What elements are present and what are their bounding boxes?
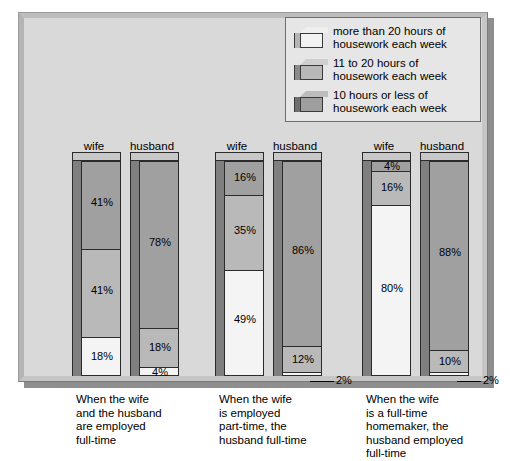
- legend-item-10-or-less: 10 hours or less of housework each week: [294, 89, 474, 115]
- bar-top-face: [273, 152, 322, 161]
- bar-header-husband: husband: [269, 140, 321, 152]
- bar-segment-value: 88%: [430, 246, 470, 258]
- bar-segment-more-than-20: 80%: [371, 205, 411, 376]
- callout-husband-2-percent: 2%: [483, 374, 499, 386]
- bar-segment-value: 80%: [372, 282, 412, 294]
- callout-husband-2-percent: 2%: [336, 374, 352, 386]
- group-caption: When the wife is a full-time homemaker, …: [366, 393, 486, 461]
- legend-item-11-to-20: 11 to 20 hours of housework each week: [294, 57, 474, 83]
- bar-segment-10-or-less: 86%: [282, 161, 322, 346]
- bar-top-face: [72, 152, 121, 161]
- bar-segment-11-to-20: 12%: [282, 346, 322, 372]
- bar-segment-11-to-20: 16%: [371, 171, 411, 205]
- bar-header-wife: wife: [211, 140, 263, 152]
- bar-segment-11-to-20: 18%: [139, 328, 179, 367]
- bar-wife: 41% 41% 18%: [81, 161, 121, 376]
- bar-header-wife: wife: [358, 140, 410, 152]
- bar-wife: 4% 16% 80%: [371, 161, 411, 376]
- chart-legend: more than 20 hours of housework each wee…: [285, 17, 481, 122]
- bar-segment-value: 4%: [140, 366, 180, 378]
- callout-leader-line: [310, 381, 334, 382]
- legend-swatch-cube-icon: [294, 59, 326, 83]
- bar-top-face: [130, 152, 179, 161]
- bar-husband: 78% 18% 4%: [139, 161, 179, 376]
- bar-segment-10-or-less: 16%: [224, 161, 264, 195]
- bar-header-wife: wife: [68, 140, 120, 152]
- bar-segment-10-or-less: 4%: [371, 161, 411, 171]
- bar-segment-10-or-less: 41%: [81, 161, 121, 249]
- bar-segment-value: 35%: [225, 224, 265, 236]
- bar-segment-10-or-less: 88%: [429, 161, 469, 350]
- callout-value: 2%: [336, 374, 352, 386]
- bar-segment-11-to-20: 35%: [224, 195, 264, 270]
- group-caption: When the wife and the husband are employ…: [76, 393, 191, 447]
- bar-segment-value: 18%: [82, 350, 122, 362]
- bar-segment-value: 10%: [430, 355, 470, 367]
- callout-value: 2%: [483, 374, 499, 386]
- bar-segment-value: 86%: [283, 244, 323, 256]
- bar-segment-value: 12%: [283, 353, 323, 365]
- bar-wife: 16% 35% 49%: [224, 161, 264, 376]
- bar-segment-value: 18%: [140, 341, 180, 353]
- bar-segment-value: 16%: [225, 171, 265, 183]
- bar-segment-more-than-20: [429, 372, 469, 376]
- legend-swatch-cube-icon: [294, 91, 326, 115]
- bar-top-face: [215, 152, 264, 161]
- bar-segment-value: 16%: [372, 181, 412, 193]
- bar-segment-more-than-20: 4%: [139, 367, 179, 376]
- bar-husband: 86% 12%: [282, 161, 322, 376]
- bar-segment-value: 41%: [82, 284, 122, 296]
- bar-header-husband: husband: [416, 140, 468, 152]
- bar-segment-value: 78%: [140, 236, 180, 248]
- bar-segment-value: 49%: [225, 313, 265, 325]
- legend-item-label: more than 20 hours of housework each wee…: [333, 25, 474, 51]
- bar-husband: 88% 10%: [429, 161, 469, 376]
- legend-swatch-cube-icon: [294, 27, 326, 51]
- bar-segment-10-or-less: 78%: [139, 161, 179, 328]
- bar-segment-value: 41%: [82, 196, 122, 208]
- bar-segment-more-than-20: 18%: [81, 337, 121, 376]
- bar-top-face: [420, 152, 469, 161]
- bar-header-husband: husband: [126, 140, 178, 152]
- bar-segment-11-to-20: 10%: [429, 350, 469, 372]
- legend-item-label: 10 hours or less of housework each week: [333, 89, 474, 115]
- callout-leader-line: [457, 381, 481, 382]
- legend-item-more-than-20: more than 20 hours of housework each wee…: [294, 25, 474, 51]
- legend-item-label: 11 to 20 hours of housework each week: [333, 57, 474, 83]
- bar-segment-more-than-20: 49%: [224, 270, 264, 376]
- group-caption: When the wife is employed part-time, the…: [219, 393, 337, 447]
- bar-segment-more-than-20: [282, 372, 322, 376]
- bar-segment-11-to-20: 41%: [81, 249, 121, 337]
